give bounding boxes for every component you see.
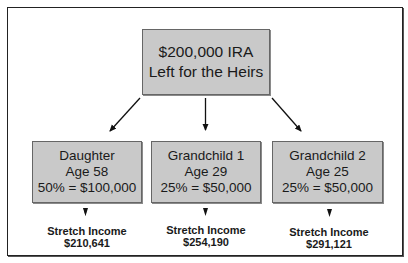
root-line-2: Left for the Heirs: [149, 62, 264, 82]
heir-age: Age 25: [306, 164, 349, 180]
heir-share: 25% = $50,000: [282, 180, 373, 196]
heir-box-grandchild-2: Grandchild 2 Age 25 25% = $50,000: [272, 141, 383, 203]
root-line-1: $200,000 IRA: [159, 42, 254, 62]
income-label: Stretch Income: [269, 226, 389, 238]
heir-name: Grandchild 2: [289, 148, 366, 164]
stretch-income-grandchild-1: Stretch Income $254,190: [146, 224, 266, 248]
heir-age: Age 58: [66, 164, 109, 180]
income-label: Stretch Income: [27, 225, 147, 237]
heir-box-daughter: Daughter Age 58 50% = $100,000: [32, 141, 142, 203]
heir-box-grandchild-1: Grandchild 1 Age 29 25% = $50,000: [151, 141, 261, 203]
stretch-income-grandchild-2: Stretch Income $291,121: [269, 226, 389, 250]
heir-share: 50% = $100,000: [38, 180, 137, 196]
root-ira-box: $200,000 IRA Left for the Heirs: [142, 29, 270, 95]
heir-name: Grandchild 1: [168, 148, 245, 164]
stretch-income-daughter: Stretch Income $210,641: [27, 225, 147, 249]
income-value: $254,190: [146, 236, 266, 248]
income-label: Stretch Income: [146, 224, 266, 236]
income-value: $210,641: [27, 237, 147, 249]
heir-share: 25% = $50,000: [160, 180, 251, 196]
income-value: $291,121: [269, 238, 389, 250]
heir-age: Age 29: [185, 164, 228, 180]
heir-name: Daughter: [59, 148, 115, 164]
